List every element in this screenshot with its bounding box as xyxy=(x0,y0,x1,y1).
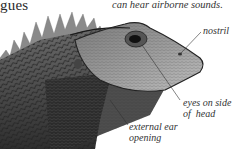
label-eyes-line2: of head xyxy=(183,108,233,119)
label-ear-line2: opening xyxy=(129,132,189,143)
label-eyes-line1: eyes on side xyxy=(183,97,233,108)
ear-opening xyxy=(74,59,82,69)
label-ear-line1: external ear xyxy=(129,121,189,132)
lizard-head-illustration xyxy=(0,0,233,149)
label-nostril: nostril xyxy=(203,25,229,36)
label-external-ear-opening: external ear opening xyxy=(129,121,189,143)
label-eyes-on-side-of-head: eyes on side of head xyxy=(183,97,233,119)
